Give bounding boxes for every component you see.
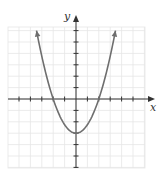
parabola-graph: x y (0, 0, 164, 181)
y-axis-arrow-icon (73, 15, 79, 22)
x-axis-label: x (150, 101, 157, 114)
curve-arrow-left-icon (35, 31, 40, 37)
curve-arrow-right-icon (112, 31, 117, 37)
y-axis-label: y (63, 10, 71, 23)
